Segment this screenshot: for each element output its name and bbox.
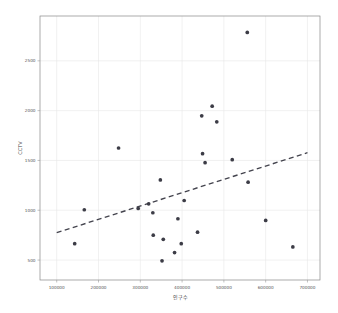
data-point	[182, 199, 186, 203]
x-tick-label: 700000	[299, 285, 315, 290]
data-point	[200, 114, 204, 118]
data-point	[160, 259, 164, 263]
data-point	[230, 158, 234, 162]
data-point	[117, 146, 121, 150]
data-point	[73, 242, 77, 246]
data-point	[136, 207, 140, 211]
data-point	[245, 31, 249, 35]
y-axis-label: CCTV	[17, 141, 23, 155]
x-tick-label: 300000	[132, 285, 148, 290]
y-axis-ticks: 5001000150020002500	[25, 58, 40, 262]
x-tick-label: 600000	[258, 285, 274, 290]
x-tick-label: 500000	[216, 285, 232, 290]
plot-background	[40, 16, 320, 280]
data-point	[291, 245, 295, 249]
data-point	[82, 208, 86, 212]
data-point	[215, 120, 219, 124]
data-point	[161, 238, 165, 242]
data-point	[210, 104, 214, 108]
y-tick-label: 1500	[25, 158, 36, 163]
x-tick-label: 100000	[49, 285, 65, 290]
data-point	[173, 251, 177, 255]
data-point	[151, 211, 155, 215]
y-tick-label: 2000	[25, 108, 36, 113]
x-tick-label: 400000	[174, 285, 190, 290]
data-point	[203, 161, 207, 165]
data-point	[201, 152, 205, 156]
data-point	[264, 219, 268, 223]
data-point	[147, 202, 151, 206]
data-point	[159, 178, 163, 182]
scatter-plot-figure: 1000002000003000004000005000006000007000…	[0, 0, 338, 313]
data-point	[179, 242, 183, 246]
chart-canvas: 1000002000003000004000005000006000007000…	[0, 0, 338, 313]
y-tick-label: 500	[28, 258, 36, 263]
x-tick-label: 200000	[91, 285, 107, 290]
data-point	[151, 233, 155, 237]
y-tick-label: 2500	[25, 58, 36, 63]
data-point	[176, 217, 180, 221]
y-tick-label: 1000	[25, 208, 36, 213]
data-point	[196, 230, 200, 234]
x-axis-ticks: 1000002000003000004000005000006000007000…	[49, 280, 316, 290]
data-point	[246, 180, 250, 184]
x-axis-label: 인구수	[173, 294, 188, 301]
